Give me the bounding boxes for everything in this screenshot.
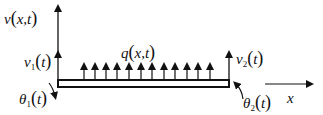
theta1-label: θ1(t) [19, 89, 47, 109]
theta2-label: θ2(t) [243, 93, 271, 113]
beam-diagram: v(x,t) q(x,t) v1(t) v2(t) θ1(t) θ2(t) x [0, 0, 323, 115]
q-load-label: q(x,t) [121, 43, 155, 61]
theta2-rotation-arrow [236, 84, 243, 99]
distributed-load-arrows [84, 66, 210, 79]
v1-label: v1(t) [24, 52, 51, 72]
beam [58, 80, 229, 87]
v-axis-label: v(x,t) [4, 9, 37, 27]
v2-label: v2(t) [236, 49, 263, 69]
theta1-rotation-arrow [49, 83, 55, 96]
x-axis-label: x [287, 91, 294, 106]
